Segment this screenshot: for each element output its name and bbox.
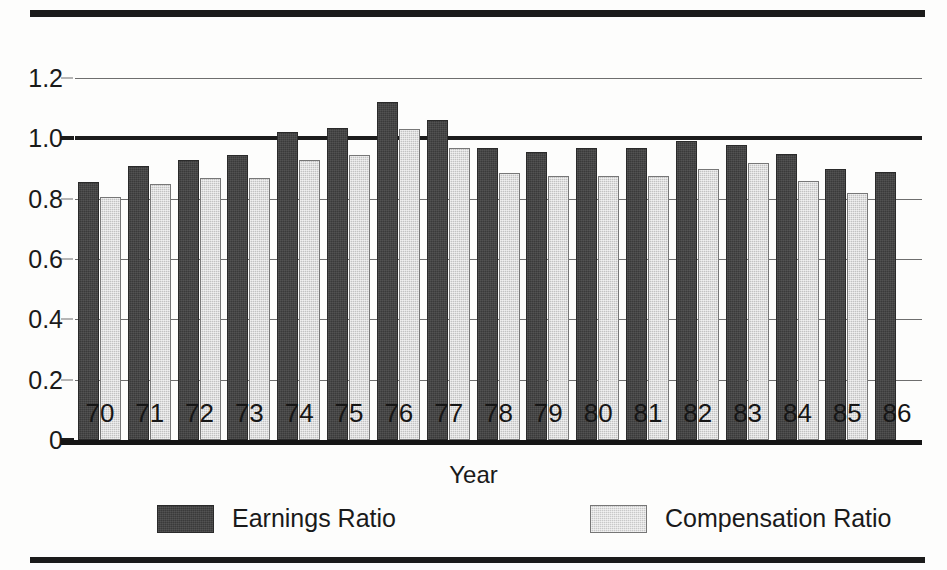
top-rule (30, 10, 925, 17)
bar-compensation-77[interactable] (449, 148, 470, 440)
x-axis-line (61, 440, 922, 445)
bar-group-79 (523, 48, 573, 440)
x-tick-label-83: 83 (723, 400, 773, 426)
legend-label-earnings-ratio: Earnings Ratio (232, 504, 396, 533)
x-tick-label-78: 78 (474, 400, 524, 426)
bar-group-73 (224, 48, 274, 440)
legend-label-compensation-ratio: Compensation Ratio (665, 504, 892, 533)
x-tick-label-84: 84 (773, 400, 823, 426)
x-tick-label-71: 71 (125, 400, 175, 426)
bottom-rule (30, 557, 925, 563)
bar-series-container (75, 48, 922, 440)
bar-group-71 (125, 48, 175, 440)
bar-group-70 (75, 48, 125, 440)
dark-swatch-icon (157, 505, 214, 533)
x-tick-label-76: 76 (374, 400, 424, 426)
bar-group-74 (274, 48, 324, 440)
y-tick-label: 0.2 (0, 367, 63, 392)
bar-earnings-78[interactable] (477, 148, 498, 440)
x-axis-title: Year (0, 461, 947, 489)
x-tick-label-80: 80 (573, 400, 623, 426)
y-tick-label: 0 (0, 428, 63, 453)
bar-group-85 (822, 48, 872, 440)
x-tick-label-86: 86 (872, 400, 922, 426)
legend-item-compensation-ratio[interactable]: Compensation Ratio (590, 504, 892, 533)
bar-earnings-80[interactable] (576, 148, 597, 440)
x-tick-label-79: 79 (523, 400, 573, 426)
x-tick-label-74: 74 (274, 400, 324, 426)
bar-group-77 (424, 48, 474, 440)
x-tick-label-77: 77 (424, 400, 474, 426)
bar-earnings-83[interactable] (726, 145, 747, 441)
light-swatch-icon (590, 505, 647, 533)
x-tick-label-70: 70 (75, 400, 125, 426)
x-tick-label-72: 72 (175, 400, 225, 426)
bar-earnings-74[interactable] (277, 132, 298, 440)
bar-earnings-82[interactable] (676, 141, 697, 440)
bar-group-82 (673, 48, 723, 440)
bar-group-83 (723, 48, 773, 440)
x-tick-label-82: 82 (673, 400, 723, 426)
x-tick-label-73: 73 (224, 400, 274, 426)
x-tick-label-85: 85 (822, 400, 872, 426)
x-tick-label-75: 75 (324, 400, 374, 426)
bar-group-81 (623, 48, 673, 440)
y-tick-label: 0.8 (0, 186, 63, 211)
bar-earnings-81[interactable] (626, 148, 647, 440)
bar-group-84 (773, 48, 823, 440)
bar-earnings-77[interactable] (427, 120, 448, 440)
y-tick-label: 0.4 (0, 307, 63, 332)
y-tick-label: 0.6 (0, 247, 63, 272)
bar-group-76 (374, 48, 424, 440)
legend-item-earnings-ratio[interactable]: Earnings Ratio (157, 504, 396, 533)
bar-earnings-75[interactable] (327, 128, 348, 440)
bar-earnings-79[interactable] (526, 152, 547, 440)
x-tick-label-81: 81 (623, 400, 673, 426)
bar-earnings-76[interactable] (377, 102, 398, 440)
bar-group-78 (474, 48, 524, 440)
bar-group-72 (175, 48, 225, 440)
plot-area: 00.20.40.60.81.01.2 (75, 48, 922, 440)
chart-figure: 00.20.40.60.81.01.2 70717273747576777879… (0, 0, 947, 570)
y-tick-label: 1.0 (0, 126, 63, 151)
bar-compensation-76[interactable] (399, 129, 420, 440)
bar-group-86 (872, 48, 922, 440)
bar-group-75 (324, 48, 374, 440)
y-tick-label: 1.2 (0, 66, 63, 91)
bar-group-80 (573, 48, 623, 440)
chart-legend: Earnings Ratio Compensation Ratio (0, 504, 947, 538)
